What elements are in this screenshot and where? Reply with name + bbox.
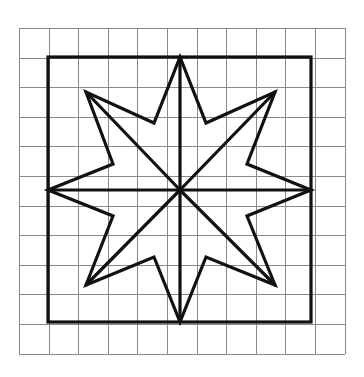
- star-figure-canvas: Eight-pointed star inscribed in a square…: [0, 0, 364, 377]
